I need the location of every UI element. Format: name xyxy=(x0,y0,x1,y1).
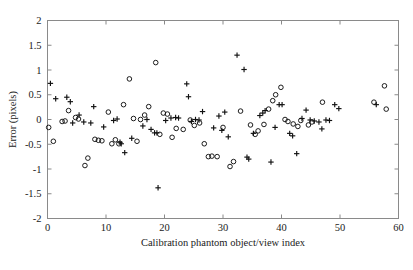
x-axis-ticks xyxy=(48,21,399,219)
data-point-cross xyxy=(148,127,153,132)
plot-frame xyxy=(48,21,399,219)
plot-border xyxy=(48,21,399,219)
series-circle-markers xyxy=(46,60,388,169)
data-point-circle xyxy=(83,163,88,168)
y-tick-label: -1 xyxy=(33,164,42,175)
data-point-cross xyxy=(272,125,277,130)
y-tick-label: -0.5 xyxy=(25,139,42,150)
data-point-circle xyxy=(110,141,115,146)
data-point-circle xyxy=(372,100,377,105)
y-axis-tick-labels: -2-1.5-1-0.500.511.52 xyxy=(25,15,42,224)
data-point-circle xyxy=(174,126,179,131)
data-point-cross xyxy=(122,150,127,155)
x-tick-label: 20 xyxy=(159,222,170,233)
x-tick-label: 50 xyxy=(335,222,346,233)
data-point-circle xyxy=(135,139,140,144)
data-point-circle xyxy=(248,123,253,128)
y-axis-title: Error (pixels) xyxy=(7,91,19,148)
data-point-circle xyxy=(231,159,236,164)
data-point-circle xyxy=(106,110,111,115)
data-point-circle xyxy=(86,156,91,161)
y-tick-label: 0 xyxy=(36,114,41,125)
data-point-cross xyxy=(64,95,69,100)
data-point-circle xyxy=(153,60,158,65)
data-point-circle xyxy=(138,117,143,122)
data-point-circle xyxy=(296,124,301,129)
data-point-cross xyxy=(226,134,231,139)
data-point-cross xyxy=(53,96,58,101)
data-point-circle xyxy=(270,98,275,103)
data-point-circle xyxy=(273,92,278,97)
data-point-cross xyxy=(234,52,239,57)
data-point-cross xyxy=(257,113,262,118)
data-point-cross xyxy=(155,185,160,190)
data-point-cross xyxy=(319,126,324,131)
data-point-cross xyxy=(303,107,308,112)
data-point-circle xyxy=(127,77,132,82)
data-point-circle xyxy=(202,141,207,146)
data-point-cross xyxy=(176,115,181,120)
data-point-cross xyxy=(184,81,189,86)
data-point-cross xyxy=(332,102,337,107)
data-point-cross xyxy=(140,123,145,128)
x-tick-label: 60 xyxy=(393,222,404,233)
x-tick-label: 30 xyxy=(218,222,229,233)
data-point-circle xyxy=(228,164,233,169)
data-point-cross xyxy=(294,151,299,156)
data-point-circle xyxy=(221,125,226,130)
data-point-cross xyxy=(88,120,93,125)
data-point-cross xyxy=(268,159,273,164)
y-tick-label: 2 xyxy=(36,15,41,26)
data-point-cross xyxy=(48,81,53,86)
data-point-cross xyxy=(216,113,221,118)
series-cross-markers xyxy=(48,52,379,190)
data-point-cross xyxy=(200,109,205,114)
x-axis-title: Calibration phantom object/view index xyxy=(141,237,306,248)
x-tick-label: 40 xyxy=(276,222,287,233)
data-point-cross xyxy=(336,106,341,111)
x-tick-label: 0 xyxy=(45,222,50,233)
y-tick-label: -2 xyxy=(33,213,42,224)
data-point-circle xyxy=(192,123,197,128)
y-axis-ticks xyxy=(48,21,399,219)
data-point-cross xyxy=(279,102,284,107)
data-point-cross xyxy=(290,133,295,138)
data-point-cross xyxy=(163,118,168,123)
y-tick-label: -1.5 xyxy=(25,188,42,199)
data-point-cross xyxy=(327,118,332,123)
data-point-cross xyxy=(101,124,106,129)
data-point-circle xyxy=(197,121,202,126)
data-point-cross xyxy=(219,128,224,133)
data-point-cross xyxy=(287,131,292,136)
data-point-cross xyxy=(81,119,86,124)
data-point-circle xyxy=(181,127,186,132)
y-tick-label: 0.5 xyxy=(28,89,41,100)
data-point-circle xyxy=(384,107,389,112)
data-point-circle xyxy=(51,139,56,144)
data-point-circle xyxy=(266,107,271,112)
data-point-circle xyxy=(158,132,163,137)
x-axis-tick-labels: 0102030405060 xyxy=(45,222,404,233)
y-tick-label: 1.5 xyxy=(28,40,41,51)
data-point-cross xyxy=(129,136,134,141)
data-point-cross xyxy=(91,104,96,109)
data-point-cross xyxy=(241,67,246,72)
data-point-circle xyxy=(256,129,261,134)
data-point-circle xyxy=(279,85,284,90)
data-point-circle xyxy=(142,113,147,118)
data-point-circle xyxy=(121,102,126,107)
scatter-plot-figure: 0102030405060 -2-1.5-1-0.500.511.52 Cali… xyxy=(0,0,413,270)
data-point-circle xyxy=(170,135,175,140)
x-tick-label: 10 xyxy=(101,222,112,233)
data-point-circle xyxy=(131,116,136,121)
data-point-cross xyxy=(211,125,216,130)
data-point-cross xyxy=(186,94,191,99)
data-point-circle xyxy=(63,119,68,124)
data-point-cross xyxy=(222,109,227,114)
chart-canvas: 0102030405060 -2-1.5-1-0.500.511.52 Cali… xyxy=(0,0,413,270)
data-point-circle xyxy=(113,137,118,142)
data-point-cross xyxy=(316,119,321,124)
data-point-circle xyxy=(66,108,71,113)
data-point-cross xyxy=(70,120,75,125)
data-point-circle xyxy=(215,154,220,159)
